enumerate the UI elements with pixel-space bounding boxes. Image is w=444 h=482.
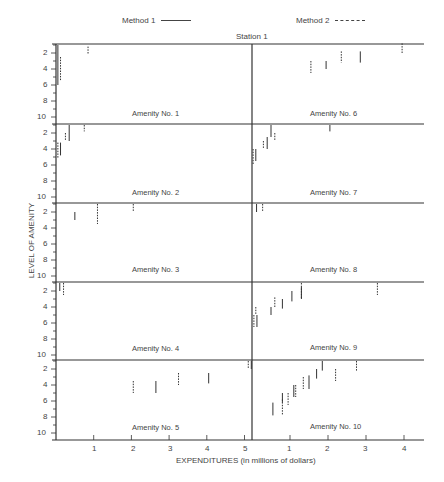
chart-plot-area xyxy=(0,0,444,482)
